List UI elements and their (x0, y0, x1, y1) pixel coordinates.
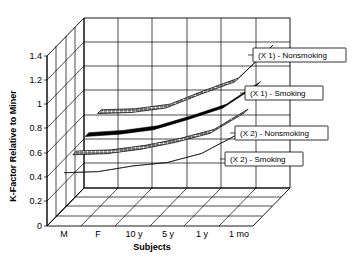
y-axis-tick-labels: 1.4 1.2 1 0.8 0.6 0.4 0.2 0 (29, 51, 42, 231)
ribbon-x-1-nonsmoking (97, 45, 272, 113)
floor-plane (47, 188, 290, 226)
legend-item-x1-smoking[interactable]: (X 1) - Smoking (245, 86, 323, 100)
chart-canvas: 1.4 1.2 1 0.8 0.6 0.4 0.2 0 K-Factor Rel… (0, 0, 354, 261)
legend-item-x2-nonsmoking[interactable]: (X 2) - Nonsmoking (235, 126, 328, 140)
x-axis-tick-labels: M F 10 y 5 y 1 y 1 mo (60, 229, 249, 239)
y-tick-label: 0.6 (29, 148, 42, 158)
y-tick-label: 1.2 (29, 75, 42, 85)
x-tick-label: M (60, 229, 68, 239)
legend-label: (X 2) - Nonsmoking (240, 129, 309, 138)
y-tick-label: 1 (37, 99, 42, 109)
y-tick-label: 0.8 (29, 123, 42, 133)
x-tick-label: 5 y (162, 229, 175, 239)
legend-label: (X 1) - Smoking (250, 89, 306, 98)
x-tick-label: 1 mo (229, 229, 249, 239)
legend-label: (X 1) - Nonsmoking (258, 51, 327, 60)
y-tick-label: 0.2 (29, 196, 42, 206)
legend-label: (X 2) - Smoking (230, 155, 286, 164)
chart-figure: 1.4 1.2 1 0.8 0.6 0.4 0.2 0 K-Factor Rel… (0, 0, 354, 261)
x-tick-label: 10 y (125, 229, 143, 239)
x-tick-label: 1 y (196, 229, 209, 239)
legend-item-x2-smoking[interactable]: (X 2) - Smoking (225, 152, 303, 166)
x-axis-title: Subjects (133, 242, 171, 252)
y-tick-label: 1.4 (29, 51, 42, 61)
x-tick-label: F (95, 229, 101, 239)
left-wall (47, 18, 84, 226)
y-axis-title: K-Factor Relative to Miner (8, 90, 18, 202)
legend-item-x1-nonsmoking[interactable]: (X 1) - Nonsmoking (253, 48, 346, 62)
y-tick-label: 0.4 (29, 172, 42, 182)
y-tick-label: 0 (37, 221, 42, 231)
